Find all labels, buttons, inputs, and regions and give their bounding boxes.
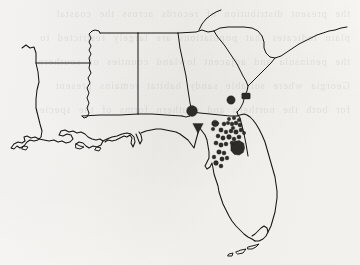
distribution-marker: [227, 135, 232, 140]
north-ridge-appalachian: [199, 10, 221, 30]
distribution-marker: [219, 128, 223, 132]
map-canvas: [0, 0, 360, 265]
distribution-marker: [214, 141, 218, 145]
distribution-marker: [219, 164, 223, 168]
distribution-marker: [230, 122, 234, 126]
florida-keys-upper: [248, 244, 259, 249]
mississippi-outline: [82, 30, 100, 118]
distribution-marker: [216, 134, 220, 138]
alabama-georgia-border: [178, 33, 192, 117]
distribution-marker: [237, 118, 241, 122]
distribution-marker: [231, 126, 235, 130]
distribution-map-figure: the present distribution of records acro…: [0, 0, 360, 265]
distribution-marker: [187, 106, 198, 117]
mississippi-south-border: [82, 114, 138, 116]
map-outlines: [11, 10, 347, 256]
distribution-marker: [227, 96, 235, 104]
florida-keys-lower: [236, 249, 246, 254]
distribution-marker: [232, 116, 236, 120]
distribution-marker: [222, 122, 226, 126]
gulf-coast-mississippi-alabama: [103, 133, 135, 147]
distribution-marker: [193, 124, 203, 134]
distribution-marker: [222, 151, 226, 155]
distribution-marker: [212, 155, 216, 159]
barrier-island-chandeleur: [95, 147, 101, 151]
florida-south-tip: [252, 226, 268, 241]
distribution-marker: [212, 120, 219, 127]
georgia-florida-border: [192, 112, 237, 116]
south-carolina-outline: [214, 27, 347, 58]
distribution-marker: [234, 121, 238, 125]
distribution-marker: [225, 156, 229, 160]
south-carolina-coast: [248, 58, 275, 86]
distribution-marker: [230, 141, 234, 145]
distribution-marker: [214, 161, 219, 166]
distribution-marker: [239, 128, 243, 132]
distribution-marker: [217, 150, 222, 155]
distribution-markers-layer: [187, 93, 251, 168]
distribution-marker: [227, 117, 230, 120]
florida-keys-key-west: [228, 253, 233, 256]
distribution-marker: [234, 130, 239, 135]
distribution-marker: [232, 137, 236, 141]
distribution-marker: [226, 121, 230, 125]
distribution-marker: [220, 157, 224, 161]
distribution-marker: [219, 143, 223, 147]
distribution-marker: [237, 135, 241, 139]
coast-pensacola-to-panhandle: [141, 127, 199, 148]
georgia-north-border: [178, 30, 214, 33]
mobile-bay: [136, 132, 142, 144]
distribution-marker: [238, 123, 242, 127]
distribution-marker: [221, 136, 225, 140]
distribution-marker: [224, 142, 228, 146]
distribution-marker: [211, 127, 215, 131]
distribution-marker: [242, 131, 245, 134]
barrier-island-delta: [76, 144, 84, 149]
alabama-florida-border: [138, 114, 182, 116]
distribution-marker: [224, 130, 228, 134]
distribution-marker: [242, 93, 251, 99]
